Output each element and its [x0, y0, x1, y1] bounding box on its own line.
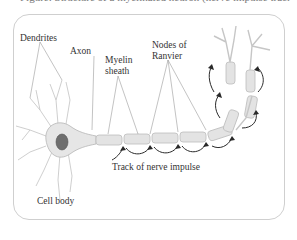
nucleus-graphic: [56, 134, 68, 150]
label-myelin-line2: sheath: [105, 66, 129, 76]
label-nodes-line1: Nodes of: [152, 40, 187, 50]
label-myelin-line1: Myelin: [105, 55, 132, 65]
label-nodes-line2: Ranvier: [152, 51, 182, 61]
impulse-arrows: [112, 66, 263, 160]
axon-terminals-graphic: [214, 26, 270, 130]
label-track: Track of nerve impulse: [112, 162, 200, 172]
label-axon: Axon: [70, 46, 91, 56]
label-cell-body: Cell body: [37, 196, 74, 206]
cell-body-graphic: [46, 123, 96, 157]
label-dendrites: Dendrites: [20, 33, 57, 43]
